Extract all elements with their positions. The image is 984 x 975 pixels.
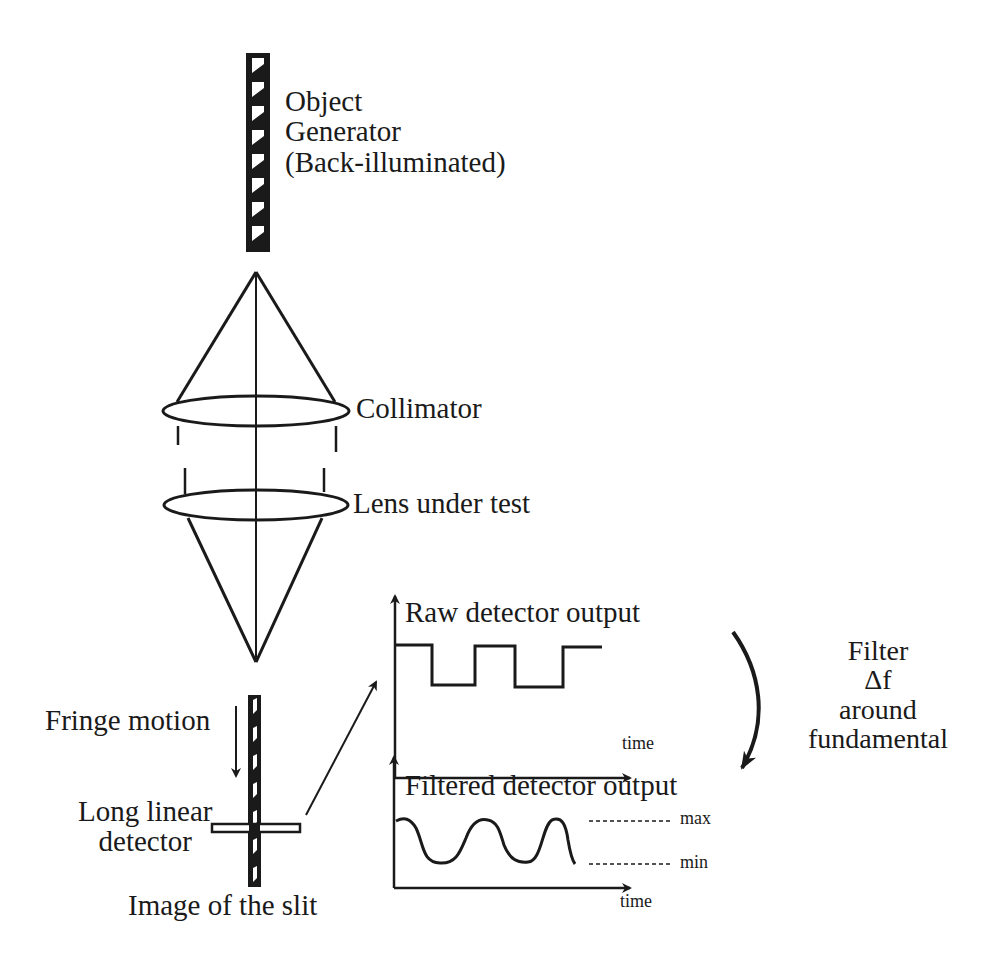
filter-arrow: [733, 632, 759, 768]
min-label: min: [680, 853, 708, 872]
linear-detector: [212, 824, 300, 832]
sine-wave-signal: [396, 819, 575, 864]
label-line: Generator: [285, 116, 506, 146]
long-linear-detector-label: Long linear detector: [78, 796, 212, 857]
fringe-motion-label: Fringe motion: [45, 705, 210, 735]
raw-output-title: Raw detector output: [405, 597, 640, 627]
object-generator: [246, 53, 270, 252]
label-line: Object: [285, 86, 506, 116]
object-generator-label: Object Generator (Back-illuminated): [285, 86, 506, 177]
label-line: fundamental: [788, 724, 968, 753]
collimator-label: Collimator: [356, 393, 482, 423]
detector-output-arrow: [306, 682, 376, 815]
filtered-output-title: Filtered detector output: [405, 770, 677, 800]
label-line: around: [788, 695, 968, 724]
filter-label: Filter Δf around fundamental: [788, 636, 968, 754]
lens-under-test-label: Lens under test: [353, 488, 530, 518]
filtered-time-axis-label: time: [620, 892, 652, 911]
square-wave-signal: [396, 645, 602, 687]
max-label: max: [680, 809, 711, 828]
label-line: detector: [78, 826, 212, 856]
label-line: (Back-illuminated): [285, 147, 506, 177]
image-of-slit-label: Image of the slit: [128, 890, 317, 920]
raw-time-axis-label: time: [622, 734, 654, 753]
slit-image: [248, 695, 261, 887]
optical-diagram: Object Generator (Back-illuminated) Coll…: [0, 0, 984, 975]
label-line: Filter: [788, 636, 968, 665]
label-line: Δf: [788, 665, 968, 694]
label-line: Long linear: [78, 796, 212, 826]
